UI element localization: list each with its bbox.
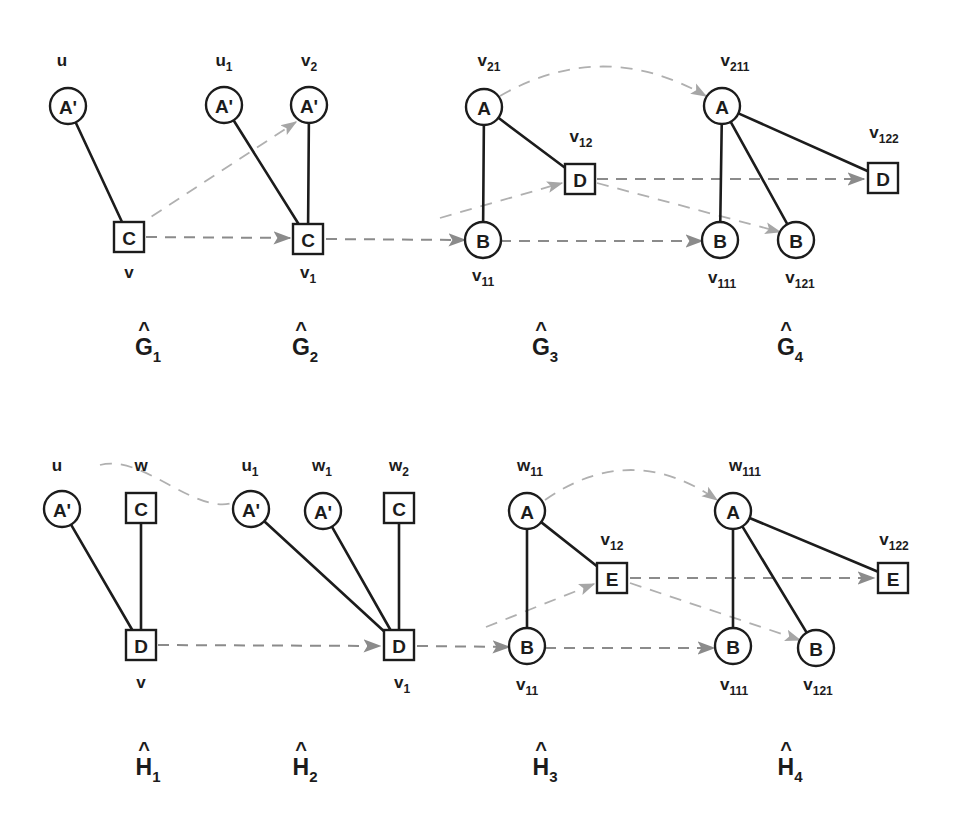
- node-letter: A': [242, 500, 260, 521]
- mapping-arrow-layer: [100, 67, 874, 649]
- graph-edge: [332, 527, 391, 630]
- node-letter: C: [134, 499, 148, 520]
- node-letter: B: [476, 231, 490, 252]
- vertex-name-label: u: [57, 51, 67, 70]
- graph-node-square-D[interactable]: D: [565, 164, 595, 194]
- graph-edge: [234, 120, 299, 224]
- panel-caption: H4: [778, 754, 804, 785]
- vertex-name-label: w: [133, 456, 148, 475]
- panel-caption: G2: [292, 334, 318, 365]
- figure-canvas: A'CA'A'CABDABBDA'CDA'A'CDABEABBE uvu1v2v…: [0, 0, 973, 834]
- vertex-name-label: v2: [301, 51, 317, 74]
- node-letter: A': [59, 97, 77, 118]
- vertex-name-label: v1: [300, 263, 316, 286]
- graph-node-square-C[interactable]: C: [114, 222, 144, 252]
- vertex-name-label: v111: [708, 268, 736, 291]
- vertex-name-label: w1: [311, 456, 332, 479]
- graph-node-square-D[interactable]: D: [868, 163, 898, 193]
- mapping-arrow-diagonal: [134, 122, 296, 228]
- node-letter: B: [726, 637, 740, 658]
- panel-caption: G3: [532, 334, 558, 365]
- node-letter: B: [789, 231, 803, 252]
- graph-node-circle-B[interactable]: B: [778, 222, 814, 258]
- graph-node-circle-Aprime[interactable]: A': [206, 87, 242, 123]
- graph-node-circle-B[interactable]: B: [509, 628, 545, 664]
- panel-caption: H2: [293, 754, 318, 785]
- graph-edge: [541, 522, 597, 566]
- node-letter: B: [809, 639, 823, 660]
- graph-node-circle-Aprime[interactable]: A': [233, 491, 269, 527]
- vertex-name-label: v21: [478, 51, 501, 74]
- graph-node-circle-B[interactable]: B: [465, 222, 501, 258]
- mapping-arrow-straight: [417, 646, 509, 647]
- graph-edge: [720, 124, 721, 222]
- graph-edge: [742, 526, 806, 632]
- graph-node-circle-A[interactable]: A: [715, 493, 751, 529]
- node-letter: A: [726, 502, 740, 523]
- node-letter: D: [876, 169, 890, 190]
- vertex-name-label: v122: [869, 123, 899, 146]
- node-letter: D: [134, 636, 148, 657]
- graph-node-square-C[interactable]: C: [293, 224, 323, 254]
- graph-node-circle-A[interactable]: A: [466, 89, 502, 125]
- vertex-name-label: v: [124, 263, 134, 282]
- vertex-name-label: u1: [215, 51, 232, 74]
- vertex-name-label: u1: [241, 456, 258, 479]
- vertex-name-label: w111: [728, 456, 761, 479]
- mapping-arrow-arc: [545, 470, 717, 500]
- vertex-name-label: v12: [601, 530, 624, 553]
- vertex-name-label: v12: [570, 127, 593, 150]
- node-letter: A: [477, 98, 491, 119]
- graph-node-layer: A'CA'A'CABDABBDA'CDA'A'CDABEABBE: [44, 87, 908, 666]
- node-letter: A': [53, 500, 71, 521]
- graph-node-square-D[interactable]: D: [126, 630, 156, 660]
- vertex-name-label: v111: [720, 675, 748, 698]
- node-letter: C: [122, 228, 136, 249]
- mapping-arrow-arc: [500, 67, 706, 97]
- graph-node-square-E[interactable]: E: [597, 563, 627, 593]
- node-letter: D: [573, 170, 587, 191]
- graph-edge: [483, 125, 484, 222]
- graph-node-circle-B[interactable]: B: [702, 222, 738, 258]
- mapping-arrow-straight: [158, 645, 380, 646]
- panel-caption: G1: [135, 334, 161, 365]
- vertex-name-label: v1: [394, 673, 410, 696]
- graph-node-circle-A[interactable]: A: [704, 88, 740, 124]
- node-letter: E: [887, 569, 900, 590]
- panel-caption: G4: [777, 334, 804, 365]
- node-letter: A: [715, 97, 729, 118]
- node-letter: C: [392, 499, 406, 520]
- mapping-arrow-straight: [326, 239, 465, 240]
- vertex-name-label: v121: [803, 675, 833, 698]
- graph-edge: [498, 118, 565, 168]
- graph-node-square-C[interactable]: C: [126, 493, 156, 523]
- panel-caption: H3: [533, 754, 558, 785]
- graph-edge: [750, 518, 878, 572]
- graph-node-circle-A[interactable]: A: [509, 493, 545, 529]
- figure-root: A'CA'A'CABDABBDA'CDA'A'CDABEABBE uvu1v2v…: [0, 0, 973, 834]
- graph-node-square-E[interactable]: E: [878, 563, 908, 593]
- vertex-name-label: v211: [721, 51, 750, 74]
- graph-edge-layer: [71, 113, 878, 632]
- vertex-name-label: w11: [516, 456, 543, 479]
- graph-node-circle-B[interactable]: B: [715, 628, 751, 664]
- node-letter: A': [215, 96, 233, 117]
- vertex-name-label: v: [136, 673, 146, 692]
- node-letter: A: [520, 502, 534, 523]
- graph-node-circle-Aprime[interactable]: A': [50, 88, 86, 124]
- vertex-name-label: u: [52, 456, 62, 475]
- graph-node-square-C[interactable]: C: [384, 493, 414, 523]
- vertex-name-label: v122: [879, 530, 909, 553]
- graph-edge: [308, 123, 309, 224]
- graph-node-circle-Aprime[interactable]: A': [305, 493, 341, 529]
- graph-node-circle-Aprime[interactable]: A': [44, 491, 80, 527]
- mapping-arrow-diagonal: [440, 183, 562, 218]
- graph-edge: [738, 113, 868, 171]
- graph-edge: [731, 122, 788, 224]
- node-letter: C: [301, 230, 315, 251]
- graph-node-circle-B[interactable]: B: [798, 630, 834, 666]
- node-letter: B: [520, 637, 534, 658]
- graph-node-square-D[interactable]: D: [384, 630, 414, 660]
- graph-node-circle-Aprime[interactable]: A': [291, 87, 327, 123]
- vertex-name-label: w2: [388, 456, 409, 479]
